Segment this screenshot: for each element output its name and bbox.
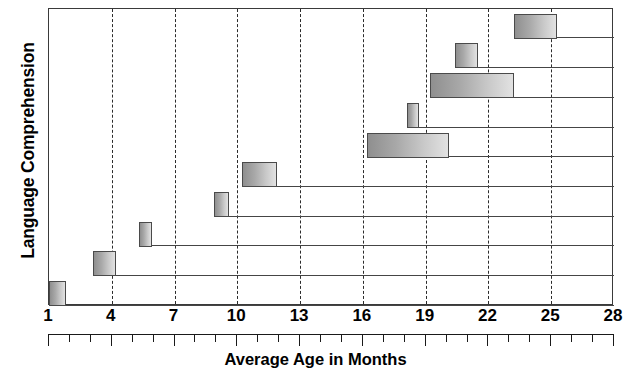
ruler-tick-2: [69, 334, 70, 342]
x-tick-label-7: 7: [169, 306, 178, 326]
bar-row-8[interactable]: [430, 73, 514, 98]
step-rule-row-3: [139, 245, 614, 246]
ruler-tick-23: [508, 334, 509, 342]
ruler-tick-18: [404, 334, 405, 342]
y-axis-title: Language Comprehension: [18, 6, 39, 296]
ruler-tick-26: [571, 334, 572, 342]
ruler-tick-17: [383, 334, 384, 342]
plot-area: [48, 8, 613, 305]
ruler-tick-24: [529, 334, 530, 342]
ruler-tick-9: [215, 334, 216, 342]
x-axis-line: [48, 334, 613, 335]
x-axis-ruler: [48, 334, 613, 346]
bar-row-10[interactable]: [514, 14, 558, 39]
step-rule-row-4: [214, 216, 614, 217]
ruler-tick-13: [299, 334, 300, 346]
ruler-tick-16: [362, 334, 363, 346]
step-rule-row-7: [407, 127, 614, 128]
x-tick-label-4: 4: [106, 306, 115, 326]
x-axis-tick-labels: 14710131619222528: [0, 306, 631, 332]
ruler-tick-7: [174, 334, 175, 346]
x-tick-label-19: 19: [415, 306, 434, 326]
ruler-tick-3: [90, 334, 91, 342]
x-tick-label-22: 22: [478, 306, 497, 326]
ruler-tick-19: [425, 334, 426, 346]
bar-row-3[interactable]: [139, 222, 152, 247]
x-tick-label-16: 16: [352, 306, 371, 326]
ruler-tick-15: [341, 334, 342, 342]
ruler-tick-8: [194, 334, 195, 342]
ruler-tick-28: [613, 334, 614, 346]
ruler-tick-6: [153, 334, 154, 342]
ruler-tick-12: [278, 334, 279, 342]
chart-root: Language Comprehension 14710131619222528…: [0, 0, 631, 380]
x-tick-label-10: 10: [227, 306, 246, 326]
gridline-7: [175, 9, 176, 304]
ruler-tick-27: [592, 334, 593, 342]
bar-row-6[interactable]: [367, 133, 449, 158]
bar-row-2[interactable]: [93, 251, 116, 276]
ruler-tick-5: [132, 334, 133, 342]
ruler-tick-21: [467, 334, 468, 342]
step-rule-row-9: [455, 67, 614, 68]
gridline-10: [237, 9, 238, 304]
ruler-tick-11: [257, 334, 258, 342]
bar-row-1[interactable]: [49, 281, 66, 306]
ruler-tick-22: [487, 334, 488, 346]
bar-row-7[interactable]: [407, 103, 420, 128]
bar-row-5[interactable]: [242, 162, 278, 187]
ruler-tick-25: [550, 334, 551, 346]
gridline-13: [300, 9, 301, 304]
ruler-tick-4: [111, 334, 112, 346]
ruler-tick-1: [48, 334, 49, 346]
bar-row-9[interactable]: [455, 43, 478, 68]
step-rule-row-5: [242, 186, 614, 187]
gridline-16: [363, 9, 364, 304]
ruler-tick-20: [446, 334, 447, 342]
x-tick-label-28: 28: [604, 306, 623, 326]
x-tick-label-1: 1: [43, 306, 52, 326]
ruler-tick-10: [236, 334, 237, 346]
ruler-tick-14: [320, 334, 321, 342]
step-rule-row-2: [93, 275, 614, 276]
x-tick-label-25: 25: [541, 306, 560, 326]
bar-row-4[interactable]: [214, 192, 229, 217]
x-tick-label-13: 13: [290, 306, 309, 326]
x-axis-title: Average Age in Months: [0, 350, 631, 369]
